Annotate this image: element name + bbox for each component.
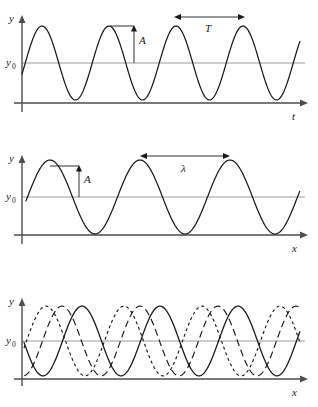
period-arrowhead-left [174,14,181,20]
x-axis-arrowhead [300,100,308,107]
wave-characteristics-figure: y y 0 A T t y y 0 A [0,0,318,407]
y-axis-arrowhead [19,15,26,23]
y-axis-label: y [8,12,14,24]
wavelength-arrowhead-left [140,153,147,159]
y-axis-arrowhead [19,155,26,163]
x-axis-label: x [291,386,297,398]
y-axis-label: y [8,295,14,307]
panel-phase-svg: y y 0 x [0,266,318,407]
reference-label-y0-main: y [5,334,11,346]
amplitude-label: A [138,34,146,46]
y-axis-arrowhead [19,298,26,306]
reference-label-y0-subscript: 0 [12,62,16,71]
y-axis-label: y [8,152,14,164]
panel-displacement-versus-distance: y y 0 A λ x [0,131,318,267]
panel-space-svg: y y 0 A λ x [0,131,318,267]
reference-label-y0-main: y [5,56,11,68]
period-arrowhead-right [238,14,245,20]
period-label: T [205,22,212,34]
x-axis-arrowhead [300,232,308,239]
amplitude-label: A [83,173,91,185]
reference-label-y0-subscript: 0 [12,196,16,205]
x-axis-label: t [292,110,296,122]
reference-label-y0-main: y [5,190,11,202]
panel-phase-shifted-waves: y y 0 x [0,266,318,407]
panel-time-svg: y y 0 A T t [0,0,318,136]
x-axis-label: x [291,242,297,254]
x-axis-arrowhead [300,376,308,383]
reference-label-y0-subscript: 0 [12,340,16,349]
wavelength-label: λ [180,162,186,174]
panel-displacement-versus-time: y y 0 A T t [0,0,318,136]
wavelength-arrowhead-right [223,153,230,159]
